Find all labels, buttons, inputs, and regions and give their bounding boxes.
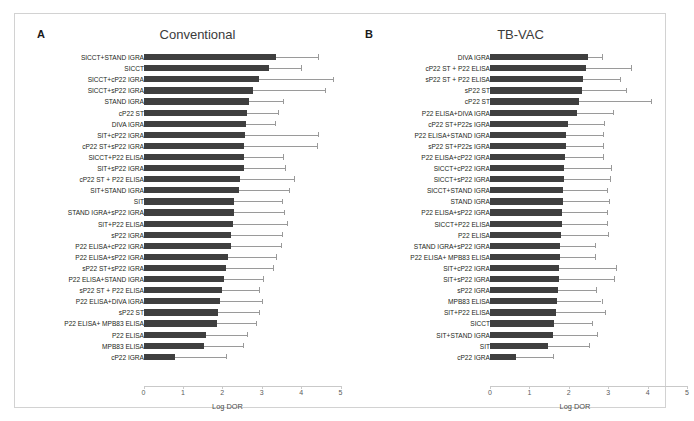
bar-track xyxy=(144,108,341,119)
error-bar-cap xyxy=(226,354,227,359)
error-bar-line xyxy=(276,57,318,58)
bar-row: SIT+STAND IGRA xyxy=(15,185,340,196)
axis-tick-label: 1 xyxy=(520,389,538,396)
error-bar-cap xyxy=(609,199,610,204)
bar-row-label: SICCT+P22 ELISA xyxy=(31,152,144,163)
bar-row: P22 ELISA+sP22 IGRA xyxy=(15,252,340,263)
error-bar-cap xyxy=(631,65,632,70)
error-bar-line xyxy=(560,257,595,258)
bar xyxy=(490,187,563,193)
bar-row: SICCT xyxy=(15,63,340,74)
bar-row: SIT+cP22 IGRA xyxy=(15,130,340,141)
bar-row: SICCT+sP22 IGRA xyxy=(340,174,665,185)
bar-track xyxy=(490,74,665,85)
error-bar-cap xyxy=(294,176,295,181)
bar-row-label: P22 ELISA+sP22 IGRA xyxy=(374,207,490,218)
bar xyxy=(490,198,563,204)
bar-row-label: STAND IGRA xyxy=(31,96,144,107)
bar-track xyxy=(490,141,665,152)
bar-row: SICCT+P22 ELISA xyxy=(15,152,340,163)
bar-track xyxy=(144,96,341,107)
bar-row-label: SICCT+sP22 IGRA xyxy=(374,174,490,185)
error-bar-line xyxy=(204,346,243,347)
bar-row-label: sP22 IGRA xyxy=(374,285,490,296)
bar-row-label: cP22 ST + P22 ELISA xyxy=(31,174,144,185)
bar-track xyxy=(144,185,341,196)
error-bar-cap xyxy=(278,110,279,115)
bar-row: P22 ELISA+DIVA IGRA xyxy=(15,296,340,307)
error-bar-cap xyxy=(602,54,603,59)
error-bar-line xyxy=(562,224,607,225)
error-bar-cap xyxy=(610,176,611,181)
error-bar-cap xyxy=(275,121,276,126)
bar-row-label: STAND IGRA+sP22 IGRA xyxy=(374,241,490,252)
error-bar-line xyxy=(559,268,615,269)
bar-row: P22 ELISA xyxy=(15,330,340,341)
bar-row: STAND IGRA+sP22 IGRA xyxy=(15,207,340,218)
bar-track xyxy=(490,330,665,341)
error-bar-line xyxy=(244,168,286,169)
bar xyxy=(144,110,248,116)
bar-row: P22 ELISA+STAND IGRA xyxy=(340,130,665,141)
bar-row-label: SIT xyxy=(374,341,490,352)
bar-row: SICCT+P22 ELISA xyxy=(340,219,665,230)
error-bar-cap xyxy=(603,132,604,137)
bar-row: SIT+P22 ELISA xyxy=(340,307,665,318)
axis-tick-label: 1 xyxy=(174,389,192,396)
bar xyxy=(490,209,562,215)
error-bar-cap xyxy=(626,88,627,93)
bar-row-label: P22 ELISA+cP22 IGRA xyxy=(374,152,490,163)
bar-track xyxy=(490,252,665,263)
bar-row-label: SIT+P22 ELISA xyxy=(374,307,490,318)
bar-row-label: P22 ELISA+STAND IGRA xyxy=(374,130,490,141)
bar xyxy=(490,276,559,282)
error-bar-cap xyxy=(595,243,596,248)
bar xyxy=(144,243,231,249)
bar-row: cP22 IGRA xyxy=(340,352,665,363)
error-bar-cap xyxy=(607,221,608,226)
bar-row: P22 ELISA+STAND IGRA xyxy=(15,274,340,285)
error-bar-cap xyxy=(243,343,244,348)
bar xyxy=(490,110,577,116)
error-bar-cap xyxy=(553,354,554,359)
error-bar-line xyxy=(175,357,227,358)
error-bar-cap xyxy=(287,221,288,226)
bar-row: SIT+sP22 IGRA xyxy=(15,163,340,174)
bar-track xyxy=(144,163,341,174)
bar-track xyxy=(144,85,341,96)
bar xyxy=(490,154,565,160)
error-bar-line xyxy=(247,113,278,114)
bar-row: P22 ELISA xyxy=(340,230,665,241)
bar-row: cP22 ST xyxy=(340,96,665,107)
error-bar-line xyxy=(226,268,272,269)
bar-track xyxy=(144,219,341,230)
bar-row: SIT+cP22 IGRA xyxy=(340,263,665,274)
bar-row: SICCT xyxy=(340,318,665,329)
bar-row-label: SICCT+cP22 IGRA xyxy=(374,163,490,174)
bar-row-label: P22 ELISA+sP22 IGRA xyxy=(31,252,144,263)
bar-row-label: P22 ELISA+DIVA IGRA xyxy=(31,296,144,307)
bar xyxy=(144,165,244,171)
bar xyxy=(144,287,222,293)
error-bar-cap xyxy=(603,143,604,148)
bar-row: cP22 ST+sP22 IGRA xyxy=(15,141,340,152)
bar-row-label: cP22 ST xyxy=(31,108,144,119)
bar-row: SIT+STAND IGRA xyxy=(340,330,665,341)
bar xyxy=(144,132,246,138)
bar-track xyxy=(144,352,341,363)
error-bar-line xyxy=(234,201,282,202)
bar xyxy=(144,320,217,326)
bar xyxy=(144,309,218,315)
bar xyxy=(144,298,220,304)
bar-track xyxy=(490,174,665,185)
bar-row: STAND IGRA+sP22 IGRA xyxy=(340,241,665,252)
error-bar-line xyxy=(231,246,281,247)
error-bar-cap xyxy=(247,332,248,337)
bar-row-label: P22 ELISA xyxy=(31,330,144,341)
error-bar-cap xyxy=(325,88,326,93)
error-bar-line xyxy=(554,323,592,324)
bar-track xyxy=(144,130,341,141)
bar xyxy=(144,98,250,104)
axis-tick-label: 0 xyxy=(481,389,499,396)
bar-row: DIVA IGRA xyxy=(15,119,340,130)
